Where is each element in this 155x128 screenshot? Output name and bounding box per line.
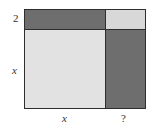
horizontal-divider xyxy=(24,29,146,30)
label-left-top: 2 xyxy=(13,13,19,24)
label-bottom-right: ? xyxy=(121,113,126,124)
vertical-divider xyxy=(105,9,106,109)
outer-border xyxy=(24,9,146,109)
label-bottom-left: x xyxy=(62,113,67,124)
label-left-bottom: x xyxy=(12,65,17,76)
